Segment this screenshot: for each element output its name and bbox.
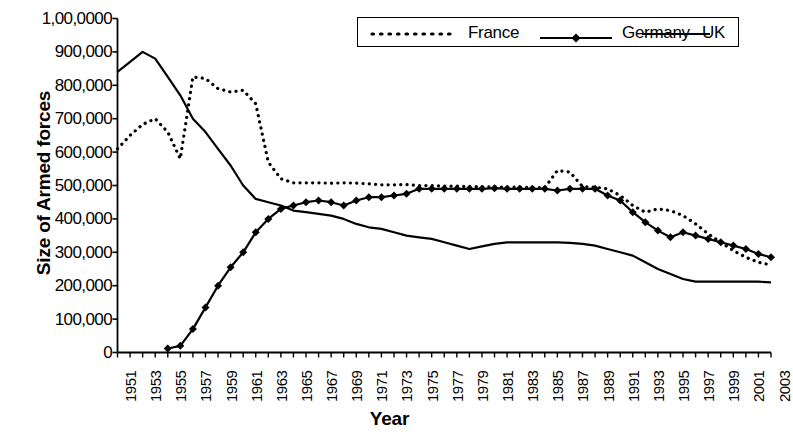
legend-swatch-france bbox=[370, 32, 456, 36]
series-marker-germany bbox=[679, 228, 687, 236]
chart-legend: France Germany UK bbox=[357, 17, 739, 47]
series-marker-germany bbox=[390, 192, 398, 200]
series-marker-germany bbox=[742, 245, 750, 253]
series-marker-germany bbox=[415, 185, 423, 193]
series-marker-germany bbox=[754, 250, 762, 258]
legend-label-france: France bbox=[468, 23, 519, 42]
series-marker-germany bbox=[516, 185, 524, 193]
series-line-germany bbox=[168, 188, 771, 348]
series-marker-germany bbox=[403, 190, 411, 198]
series-marker-germany bbox=[604, 192, 612, 200]
series-marker-germany bbox=[465, 185, 473, 193]
series-marker-germany bbox=[440, 185, 448, 193]
series-marker-germany bbox=[767, 253, 775, 261]
series-marker-germany bbox=[164, 344, 172, 352]
legend-swatch-germany bbox=[538, 32, 614, 44]
series-line-uk bbox=[118, 52, 772, 283]
series-marker-germany bbox=[453, 185, 461, 193]
series-marker-germany bbox=[491, 184, 499, 192]
series-marker-germany bbox=[666, 233, 674, 241]
series-marker-germany bbox=[377, 193, 385, 201]
series-marker-germany bbox=[478, 185, 486, 193]
series-marker-germany bbox=[566, 185, 574, 193]
series-marker-germany bbox=[553, 187, 561, 195]
series-marker-germany bbox=[340, 202, 348, 210]
series-marker-germany bbox=[365, 193, 373, 201]
series-marker-germany bbox=[692, 232, 700, 240]
series-marker-germany bbox=[578, 185, 586, 193]
series-marker-germany bbox=[428, 185, 436, 193]
series-marker-germany bbox=[541, 185, 549, 193]
series-marker-germany bbox=[352, 197, 360, 205]
series-marker-germany bbox=[315, 197, 323, 205]
series-marker-germany bbox=[717, 238, 725, 246]
series-marker-germany bbox=[327, 198, 335, 206]
series-marker-germany bbox=[302, 198, 310, 206]
data-series-group bbox=[118, 52, 776, 353]
series-marker-germany bbox=[503, 185, 511, 193]
legend-label-uk: UK bbox=[702, 23, 725, 42]
series-marker-germany bbox=[528, 185, 536, 193]
